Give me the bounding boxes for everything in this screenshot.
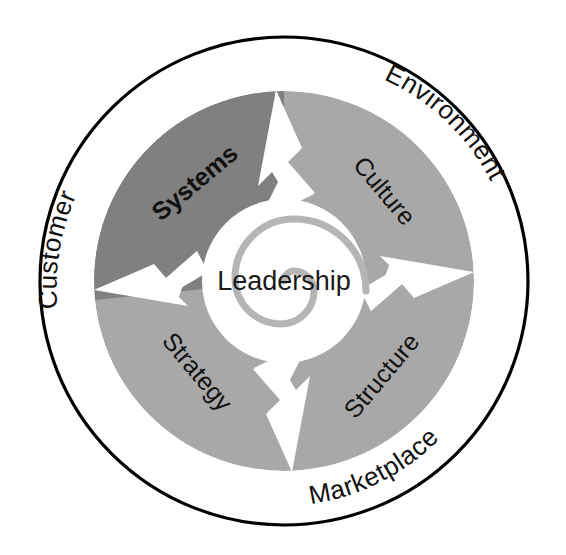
center-label-leadership: Leadership: [217, 266, 351, 296]
diagram-root: Systems Culture Structure Strategy Leade…: [0, 0, 566, 555]
leadership-pinwheel-diagram: Systems Culture Structure Strategy Leade…: [0, 0, 566, 555]
